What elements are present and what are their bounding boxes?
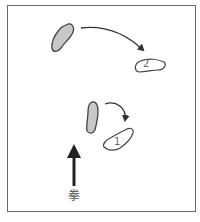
step-2-number: 2 (143, 59, 149, 69)
arrow-to-step-2 (81, 27, 143, 50)
footwork-diagram (0, 0, 200, 222)
direction-arrow-head (67, 144, 81, 158)
arrow-to-step-1 (105, 103, 125, 120)
step-2-foot (135, 59, 165, 72)
direction-label: 拳 (68, 190, 80, 202)
step-1-number: 1 (114, 137, 120, 147)
start-foot-upper (52, 24, 74, 51)
start-foot-lower (87, 102, 98, 133)
